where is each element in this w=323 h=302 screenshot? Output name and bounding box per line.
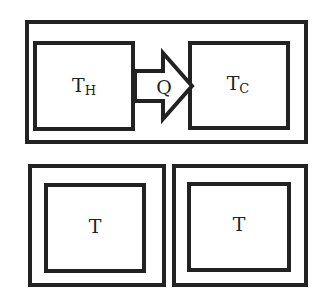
bottom-left-label: T bbox=[89, 215, 102, 237]
bottom-right-label: T bbox=[233, 213, 246, 235]
heat-flow-label: Q bbox=[156, 76, 172, 98]
